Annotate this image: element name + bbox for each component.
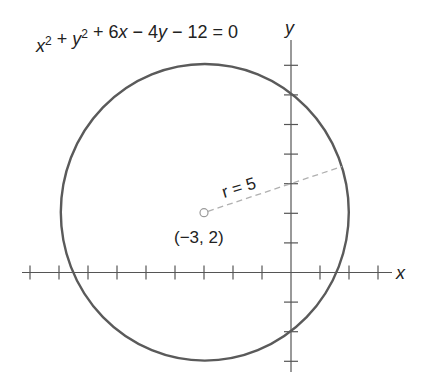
center-point [200,209,208,217]
x-axis-label: x [395,263,406,283]
center-label: (−3, 2) [174,228,224,247]
circle-diagram: x y r = 5 (−3, 2) x2 + y2 + 6x − 4y − 12… [0,0,426,380]
x-axis: x [22,263,406,283]
y-axis: y [283,18,298,372]
y-axis-label: y [283,18,295,38]
radius-label: r = 5 [220,174,259,202]
equation-label: x2 + y2 + 6x − 4y − 12 = 0 [35,22,238,56]
